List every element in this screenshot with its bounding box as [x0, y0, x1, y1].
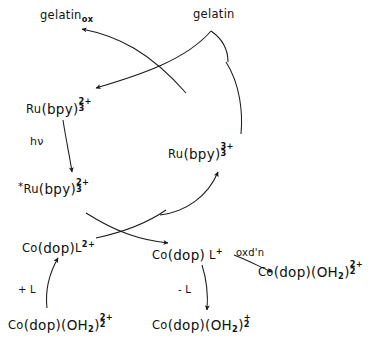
co-aq-l-aqua: (OH: [61, 317, 88, 333]
co-L-2plus-extra: L: [75, 241, 82, 255]
co-aq-r-core: Co: [258, 265, 274, 279]
co-L-2plus-core: Co: [22, 241, 38, 255]
co-L-plus-superscript: +: [216, 246, 223, 256]
arrow-hv-excitation: [63, 120, 72, 172]
species-co-dop-L-2plus: Co(dop)L2+: [22, 240, 95, 255]
species-ru-bpy-3-2plus-excited: *Ru(bpy)2+3: [18, 181, 84, 197]
species-gelatin-ox: gelatinox: [40, 10, 93, 24]
arrow-to-gelatin-ox: [82, 29, 186, 93]
co-aq-r-count: 2: [350, 267, 356, 275]
label-oxidation: oxd'n: [236, 248, 264, 258]
gelatin-ox-name: gelatin: [40, 8, 82, 22]
gelatin-ox-subscript: ox: [82, 14, 94, 24]
ru2-excited-subscript: 3: [76, 185, 82, 193]
co-L-plus-extra: L: [205, 248, 216, 262]
co-aq-r-charge-stack: 2+2: [350, 264, 358, 276]
ru2-excited-charge-stack: 2+3: [76, 182, 84, 194]
arrow-ligand-addition: [47, 258, 58, 308]
arrow-to-co-dop-L-plus: [86, 213, 168, 243]
co-aq-r-aqua: (OH: [311, 264, 338, 280]
co-aq-l-count: 2: [100, 320, 106, 328]
arrow-ligand-loss: [202, 265, 207, 310]
co-L-plus-core: Co: [152, 248, 168, 262]
label-photon-hv: hν: [30, 136, 44, 147]
co-aq-c-ligand: (dop): [168, 317, 205, 333]
ru3-ligand: (bpy): [183, 146, 220, 162]
ru3-core: Ru: [168, 147, 183, 161]
arc-cycle-upper-right: [226, 62, 242, 134]
ru2-excited-ligand: (bpy): [39, 181, 76, 197]
co-aq-c-count: 2: [244, 320, 250, 328]
species-co-dop-oh2-plus: Co(dop)(OH2)+2: [152, 317, 252, 333]
arrow-to-ru3: [160, 172, 218, 215]
label-ligand-addition: + L: [18, 285, 36, 295]
arc-cycle-top-right-join: [211, 31, 228, 62]
label-ligand-loss: - L: [178, 285, 191, 295]
species-co-dop-L-plus: Co(dop) L+: [152, 247, 223, 262]
ru2-charge-stack: 2+3: [79, 101, 87, 113]
co-aq-c-core: Co: [152, 318, 168, 332]
reaction-scheme-diagram: gelatinox gelatin Ru(bpy)2+3 hν *Ru(bpy)…: [0, 0, 373, 344]
co-L-2plus-superscript: 2+: [82, 239, 95, 249]
co-L-2plus-ligand: (dop): [38, 240, 75, 256]
ru3-subscript: 3: [221, 149, 227, 157]
co-aq-l-ligand: (dop): [24, 317, 61, 333]
arrow-gelatin-to-ru2: [96, 31, 211, 88]
ru2-subscript: 3: [79, 104, 85, 112]
co-aq-l-core: Co: [8, 318, 24, 332]
co-aq-c-aqua: (OH: [205, 317, 232, 333]
arc-from-co-dop-L-2plus: [96, 210, 166, 238]
co-aq-l-charge-stack: 2+2: [100, 317, 108, 329]
ru2-core: Ru: [26, 102, 41, 116]
gelatin-name: gelatin: [193, 7, 235, 21]
co-aq-c-charge-stack: +2: [244, 317, 252, 329]
species-co-dop-oh2-2plus-right: Co(dop)(OH2)2+2: [258, 264, 358, 280]
ru3-charge-stack: 3+3: [221, 146, 229, 158]
ru2-ligand: (bpy): [41, 101, 78, 117]
co-L-plus-ligand: (dop): [168, 247, 205, 263]
co-aq-r-ligand: (dop): [274, 264, 311, 280]
ru2-excited-core: Ru: [23, 182, 38, 196]
species-ru-bpy-3-3plus: Ru(bpy)3+3: [168, 146, 229, 161]
species-ru-bpy-3-2plus: Ru(bpy)2+3: [26, 101, 87, 116]
species-co-dop-oh2-2plus-left: Co(dop)(OH2)2+2: [8, 317, 108, 333]
species-gelatin: gelatin: [193, 9, 235, 21]
